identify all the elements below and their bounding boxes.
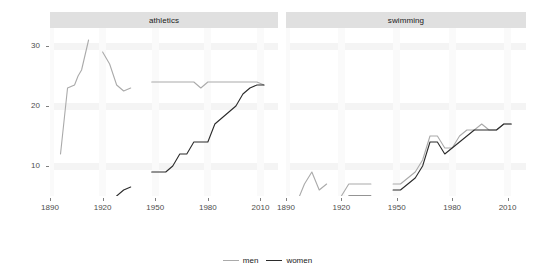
facet-strip-swimming: swimming <box>286 12 526 28</box>
xtick-mark-swimming-2010 <box>508 198 509 201</box>
series-line-athletics-men-2 <box>152 82 264 88</box>
xtick-mark-swimming-1950 <box>397 198 398 201</box>
series-layer-athletics <box>50 28 278 196</box>
legend-swatch-women <box>266 260 282 261</box>
xtick-label-athletics-1950: 1950 <box>140 203 170 212</box>
series-line-swimming-men-1 <box>341 184 371 196</box>
series-line-athletics-women-0 <box>117 187 131 196</box>
legend-item-women[interactable]: women <box>266 256 312 265</box>
series-line-swimming-men-0 <box>297 172 327 196</box>
panel-swimming <box>286 28 526 196</box>
series-layer-swimming <box>286 28 526 196</box>
xtick-label-swimming-1920: 1920 <box>326 203 356 212</box>
xtick-label-swimming-2010: 2010 <box>493 203 523 212</box>
xtick-label-athletics-1920: 1920 <box>88 203 118 212</box>
ytick-label-30: 30 <box>18 41 40 50</box>
xtick-mark-athletics-1890 <box>50 198 51 201</box>
chart-legend: menwomen <box>0 256 535 265</box>
xtick-mark-athletics-2010 <box>260 198 261 201</box>
ytick-mark-20 <box>46 106 49 107</box>
series-line-athletics-women-1 <box>152 85 264 172</box>
ytick-label-10: 10 <box>18 161 40 170</box>
xtick-mark-athletics-1920 <box>103 198 104 201</box>
xtick-mark-swimming-1980 <box>452 198 453 201</box>
series-line-swimming-women-1 <box>393 124 511 190</box>
xtick-mark-athletics-1980 <box>208 198 209 201</box>
xtick-label-athletics-1980: 1980 <box>193 203 223 212</box>
xtick-mark-swimming-1920 <box>341 198 342 201</box>
xtick-label-swimming-1950: 1950 <box>382 203 412 212</box>
ytick-label-20: 20 <box>18 101 40 110</box>
facet-strip-athletics: athletics <box>50 12 278 28</box>
xtick-mark-swimming-1890 <box>286 198 287 201</box>
series-line-athletics-men-1 <box>103 52 131 91</box>
ytick-mark-10 <box>46 166 49 167</box>
legend-item-men[interactable]: men <box>223 256 259 265</box>
xtick-mark-athletics-1950 <box>155 198 156 201</box>
legend-label-men: men <box>243 256 259 265</box>
xtick-label-swimming-1890: 1890 <box>271 203 301 212</box>
legend-swatch-men <box>223 260 239 261</box>
ytick-mark-30 <box>46 46 49 47</box>
xtick-label-swimming-1980: 1980 <box>437 203 467 212</box>
facet-strip-label: athletics <box>149 16 179 25</box>
series-line-athletics-men-0 <box>61 40 89 154</box>
panel-athletics <box>50 28 278 196</box>
legend-label-women: women <box>286 256 312 265</box>
facet-strip-label: swimming <box>388 16 424 25</box>
series-line-swimming-men-2 <box>393 124 511 184</box>
xtick-label-athletics-1890: 1890 <box>35 203 65 212</box>
chart-root: athletics10203018901920195019802010swimm… <box>0 0 535 271</box>
